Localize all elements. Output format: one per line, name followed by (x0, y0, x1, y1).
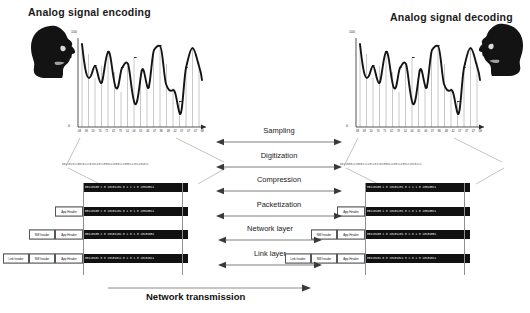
step-label: Digitization (216, 151, 342, 160)
axis-tick-label: 48 (443, 130, 450, 134)
left-axis-tick-labels: 08091070714273140405460786484207070708 (76, 130, 206, 133)
packet-payload: 00110101 0 0 10101011 0 1 0 1 0 10101011 (365, 254, 470, 263)
process-step-network-layer: Network layer (216, 224, 342, 246)
packet-payload: 00110101 0 0 10101011 0 1 0 1 0 10101011 (83, 254, 188, 263)
step-label: Packetization (216, 200, 342, 209)
packet-payload: 00110100 1 0 10101101 0 1 0 1 0 10101001 (365, 230, 470, 239)
right-waveform-chart (348, 26, 488, 136)
axis-tick-label: 46 (144, 130, 151, 134)
axis-tick-label: 07 (456, 130, 463, 134)
process-step-packetization: Packetization (216, 200, 342, 222)
axis-tick-label: 42 (450, 130, 457, 134)
axis-tick-label: 07 (151, 130, 158, 134)
axis-tick-label: 10 (368, 130, 375, 134)
left-stack-guide-line (83, 183, 84, 275)
right-axis-tick-labels: 08091070714273140405460786484207070708 (354, 130, 484, 133)
step-label: Network layer (218, 224, 322, 233)
axis-tick-label: 04 (131, 130, 138, 134)
process-steps-column: SamplingDigitizationCompressionPacketiza… (216, 126, 342, 276)
axis-tick-label: 05 (415, 130, 422, 134)
step-label: Sampling (216, 126, 342, 135)
network-transmission-label: Network transmission (146, 291, 245, 302)
packet-payload: 00110100 1 0 10101101 0 1 0 1 0 10010011 (83, 207, 188, 216)
axis-tick-label: 07 (470, 130, 477, 134)
diagram-canvas: Analog signal encoding Analog signal dec… (0, 0, 530, 313)
axis-tick-label: 09 (361, 130, 368, 134)
axis-tick-label: 08 (76, 130, 83, 134)
packet-header-app: App Header (55, 229, 83, 239)
process-step-link-layer: Link layer (216, 249, 342, 271)
packet-row: App Header00110100 1 0 10101101 0 1 0 1 … (6, 207, 226, 216)
right-stack-guide-line-right (464, 183, 465, 275)
axis-tick-label: 07 (185, 130, 192, 134)
packet-row: App HeaderNW header00110100 1 0 10101101… (6, 230, 226, 239)
axis-tick-label: 05 (137, 130, 144, 134)
axis-tick-label: 42 (172, 130, 179, 134)
packet-header-network: NW header (29, 229, 55, 239)
axis-tick-label: 86 (158, 130, 165, 134)
step-arrow (216, 162, 342, 172)
packet-payload: 00110100 1 0 10101101 0 1 1 1 0 10010011 (83, 183, 188, 192)
left-axis-max-label: 100 (71, 30, 77, 34)
packet-header-app: App Header (55, 206, 83, 216)
axis-tick-label: 86 (436, 130, 443, 134)
axis-tick-label: 04 (409, 130, 416, 134)
axis-tick-label: 07 (463, 130, 470, 134)
step-arrow (216, 186, 342, 196)
process-step-compression: Compression (216, 175, 342, 197)
step-label: Compression (216, 175, 342, 184)
left-axis-zero-label: 0 (68, 124, 70, 128)
axis-tick-label: 07 (178, 130, 185, 134)
axis-tick-label: 42 (388, 130, 395, 134)
right-axis-max-label: 100 (349, 30, 355, 34)
axis-tick-label: 08 (354, 130, 361, 134)
left-packet-stack: 00110100 1 0 10101101 0 1 1 1 0 10010011… (6, 183, 226, 278)
step-arrow (218, 260, 322, 270)
packet-header-link: Link header (3, 253, 29, 263)
packet-row: 00110100 1 0 10101101 0 1 1 1 0 10010011 (6, 183, 226, 192)
axis-tick-label: 42 (110, 130, 117, 134)
left-panel-title: Analog signal encoding (28, 6, 151, 18)
step-label: Link layer (218, 249, 322, 258)
axis-tick-label: 73 (395, 130, 402, 134)
left-waveform-chart (70, 26, 210, 136)
axis-tick-label: 07 (429, 130, 436, 134)
axis-tick-label: 46 (422, 130, 429, 134)
packet-row: App HeaderNW headerLink header00110101 0… (6, 254, 226, 263)
axis-tick-label: 71 (381, 130, 388, 134)
axis-tick-label: 10 (90, 130, 97, 134)
axis-tick-label: 14 (124, 130, 131, 134)
axis-tick-label: 70 (374, 130, 381, 134)
process-step-sampling: Sampling (216, 126, 342, 148)
packet-payload: 00110100 1 0 10101101 0 1 0 1 0 10101001 (83, 230, 188, 239)
step-arrow (218, 235, 322, 245)
right-stack-guide-line (365, 183, 366, 275)
left-stack-guide-line-right (182, 183, 183, 275)
right-axis-zero-label: 0 (346, 124, 348, 128)
packet-payload: 00110100 1 0 10101101 0 1 0 1 0 10010011 (365, 207, 470, 216)
packet-payload: 00110100 1 0 10101101 0 1 1 1 0 10010011 (365, 183, 470, 192)
axis-tick-label: 08 (199, 130, 206, 134)
packet-header-app: App Header (55, 253, 83, 263)
axis-tick-label: 07 (192, 130, 199, 134)
axis-tick-label: 73 (117, 130, 124, 134)
axis-tick-label: 09 (83, 130, 90, 134)
axis-tick-label: 71 (103, 130, 110, 134)
axis-tick-label: 70 (96, 130, 103, 134)
axis-tick-label: 14 (402, 130, 409, 134)
packet-header-network: NW header (29, 253, 55, 263)
process-step-digitization: Digitization (216, 151, 342, 173)
step-arrow (216, 211, 342, 221)
axis-tick-label: 48 (165, 130, 172, 134)
step-arrow (216, 137, 342, 147)
axis-tick-label: 08 (477, 130, 484, 134)
